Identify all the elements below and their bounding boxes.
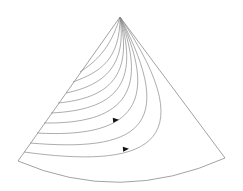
arrow-right-icon	[113, 117, 119, 123]
bottom-arc	[18, 158, 225, 182]
flow-line	[30, 17, 147, 145]
arrow-right-icon	[123, 146, 129, 152]
flow-sector-diagram	[0, 0, 243, 191]
flow-line	[24, 17, 161, 157]
flow-lines	[24, 17, 161, 157]
left-edge	[18, 17, 120, 161]
right-edge	[120, 17, 225, 158]
direction-arrows	[113, 117, 129, 152]
